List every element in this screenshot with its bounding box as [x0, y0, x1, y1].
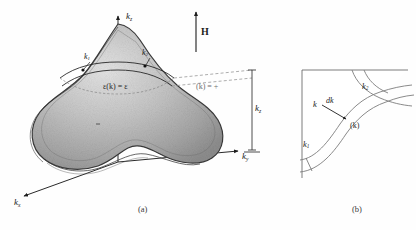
orbit-label-k2: k2 — [142, 49, 148, 58]
caption-panel-b: (b) — [352, 205, 362, 214]
axis-label-ky: ky — [242, 152, 248, 162]
surface-equation-label: ε(k) = ε — [103, 83, 128, 91]
panel-a-group — [24, 12, 260, 196]
orbit-label-k1: k1 — [84, 53, 90, 62]
physics-figure: kz ky kx kz H ε(k) = ε (k) = + k1 k2 (a)… — [0, 0, 416, 230]
axis-label-kx: kx — [14, 198, 20, 208]
panel-b-label-k2: k2 — [362, 82, 368, 92]
caption-panel-a: (a) — [138, 205, 147, 214]
axis-label-kz-bracket: kz — [255, 104, 261, 114]
right-annotation-label: (k) = + — [196, 83, 218, 91]
panel-b-label-k1: k1 — [303, 140, 309, 150]
panel-b-label-k-vector: k — [313, 100, 317, 109]
fermi-surface — [30, 24, 223, 169]
axis-label-kz: kz — [126, 12, 132, 22]
panel-b-label-dk: dk — [326, 97, 334, 105]
panel-b-label-k-paren: (k) — [350, 122, 359, 130]
field-label-H: H — [201, 27, 209, 37]
